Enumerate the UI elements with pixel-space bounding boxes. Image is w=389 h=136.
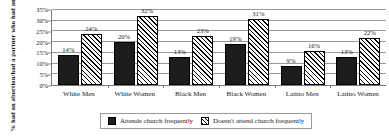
- x-axis-category-labels: White MenWhite WomenBlack MenBlack Women…: [51, 88, 386, 102]
- bar-group: 13%23%: [163, 10, 219, 85]
- bar-value-label: 31%: [252, 11, 264, 18]
- bar-group: 13%22%: [330, 10, 386, 85]
- bar: 32%: [137, 16, 158, 85]
- bar-group: 19%31%: [219, 10, 275, 85]
- legend-label-doesnt-attend: Doesn't attend church frequently: [213, 118, 304, 125]
- y-tick-label: 30%: [36, 18, 48, 24]
- chart-legend: Attends church frequently Doesn't attend…: [100, 113, 312, 129]
- bar: 16%: [304, 51, 325, 85]
- bar-value-label: 20%: [118, 34, 130, 41]
- bar: 22%: [359, 38, 380, 85]
- bar: 13%: [336, 57, 357, 85]
- y-axis-title: % had an abortion/had a partner who had …: [0, 0, 26, 104]
- x-axis-category-label: Latino Women: [330, 88, 386, 102]
- bar-value-label: 24%: [85, 26, 97, 33]
- plot-area: 14%24%20%32%13%23%19%31%9%16%13%22%: [51, 10, 386, 86]
- y-tick-label: 0%: [39, 83, 48, 89]
- bar-value-label: 13%: [174, 49, 186, 56]
- y-tick-label: 10%: [36, 61, 48, 67]
- x-axis-category-label: White Men: [51, 88, 107, 102]
- y-tick-label: 20%: [36, 39, 48, 45]
- bar-value-label: 9%: [287, 58, 296, 65]
- bar: 31%: [248, 19, 269, 85]
- y-tick-label: 25%: [36, 29, 48, 35]
- bar-group: 9%16%: [275, 10, 331, 85]
- bar-group: 14%24%: [52, 10, 108, 85]
- legend-item-attends: Attends church frequently: [108, 117, 193, 125]
- bar: 13%: [169, 57, 190, 85]
- y-tick-label: 35%: [36, 7, 48, 13]
- y-axis-title-text: % had an abortion/had a partner who had …: [9, 0, 17, 132]
- legend-swatch-hatch-icon: [201, 117, 209, 125]
- y-tick-label: 5%: [39, 72, 48, 78]
- bar: 23%: [192, 36, 213, 85]
- y-tick-label: 15%: [36, 50, 48, 56]
- y-axis-tick-labels: 0%5%10%15%20%25%30%35%: [26, 10, 50, 86]
- x-axis-category-label: Latino Men: [274, 88, 330, 102]
- bar-value-label: 19%: [229, 36, 241, 43]
- bar-value-label: 14%: [62, 47, 74, 54]
- x-axis-category-label: White Women: [107, 88, 163, 102]
- legend-swatch-solid-icon: [108, 117, 116, 125]
- plot-wrapper: 0%5%10%15%20%25%30%35% 14%24%20%32%13%23…: [26, 10, 386, 105]
- legend-label-attends: Attends church frequently: [120, 118, 193, 125]
- bar-value-label: 32%: [141, 8, 153, 15]
- bars-layer: 14%24%20%32%13%23%19%31%9%16%13%22%: [52, 10, 386, 85]
- bar: 24%: [81, 34, 102, 85]
- bar-value-label: 13%: [341, 49, 353, 56]
- legend-item-doesnt-attend: Doesn't attend church frequently: [201, 117, 304, 125]
- bar: 14%: [58, 55, 79, 85]
- bar: 19%: [225, 44, 246, 85]
- x-axis-category-label: Black Men: [163, 88, 219, 102]
- bar-value-label: 16%: [308, 43, 320, 50]
- bar-group: 20%32%: [108, 10, 164, 85]
- bar: 9%: [281, 66, 302, 85]
- bar-value-label: 22%: [364, 30, 376, 37]
- x-axis-category-label: Black Women: [218, 88, 274, 102]
- bar-value-label: 23%: [197, 28, 209, 35]
- chart-screenshot: % had an abortion/had a partner who had …: [0, 0, 389, 136]
- bar: 20%: [114, 42, 135, 85]
